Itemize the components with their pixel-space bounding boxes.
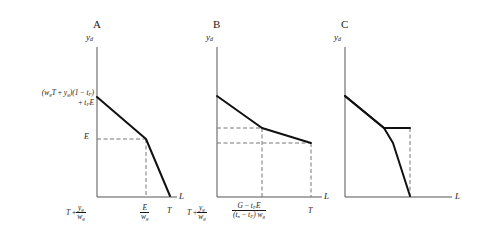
panel-a-x-tick-2: Ewg	[140, 205, 149, 222]
panel-letter-a: A	[93, 18, 101, 30]
panel-b-axes	[217, 47, 322, 197]
panel-b-x-tick-2: G − tFE(tn − tF) wg	[232, 203, 266, 221]
panel-a-budget-constraint	[97, 97, 170, 196]
panel-a-intercept-label: (wgT + yg)(1 − tF) + tFE	[12, 88, 94, 109]
panel-b-axis-end-label: L	[324, 191, 329, 201]
panel-c-axis-end-label: L	[455, 191, 460, 201]
panel-a-x-tick-1: T +ygwg	[66, 205, 86, 223]
figure-container: A yd L (wgT + yg)(1 − tF) + tFE E T +ygw…	[0, 0, 485, 249]
panel-a-y-axis-label: yd	[86, 32, 93, 42]
panel-a-axes	[97, 47, 177, 197]
panel-b-x-tick-3: T	[308, 206, 312, 215]
panel-b-budget-constraint	[217, 96, 311, 143]
panel-a-y-tick-e: E	[84, 132, 89, 141]
panel-letter-c: C	[341, 18, 349, 30]
panel-a-axis-end-label: L	[179, 191, 184, 201]
panel-c-y-axis-label: yd	[334, 32, 341, 42]
panel-c-constraint-lower	[345, 96, 410, 196]
panel-b-y-axis-label: yd	[206, 32, 213, 42]
panel-b-x-tick-1: T +ygwg	[187, 205, 207, 223]
panel-a-dashed-guides	[97, 139, 146, 197]
panel-c-axes	[345, 47, 452, 197]
panel-a-x-tick-3: T	[167, 206, 171, 215]
panel-letter-b: B	[213, 18, 221, 30]
